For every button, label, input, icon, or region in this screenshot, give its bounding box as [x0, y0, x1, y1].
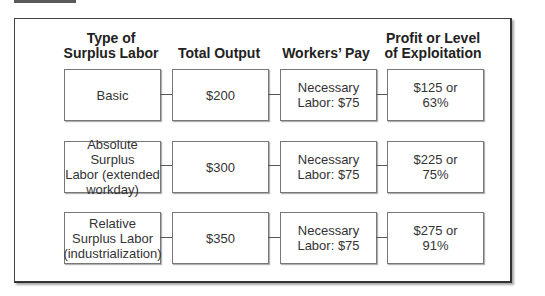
- connector: [268, 94, 280, 95]
- row2-type-box: Absolute Surplus Labor (extended workday…: [64, 141, 161, 193]
- row2-profit-box: $225 or 75%: [387, 141, 484, 193]
- row3-workers-pay-box: Necessary Labor: $75: [280, 212, 377, 264]
- box-text: Basic: [97, 88, 129, 103]
- box-text: Relative: [63, 216, 161, 231]
- row1-type-box: Basic: [64, 69, 161, 121]
- box-text: $300: [206, 160, 235, 175]
- connector: [268, 237, 280, 238]
- header-line: Surplus Labor: [56, 46, 166, 61]
- box-text: $125 or: [413, 80, 457, 95]
- row1-total-output-box: $200: [172, 69, 269, 121]
- box-text: workday): [65, 182, 160, 197]
- box-text: Labor (extended: [65, 167, 160, 182]
- connector: [160, 237, 172, 238]
- box-text: Necessary: [297, 80, 359, 95]
- header-profit-level-of-exploitation: Profit or Level of Exploitation: [378, 31, 488, 61]
- box-text: 63%: [413, 95, 457, 110]
- header-line: Profit or Level: [378, 31, 488, 46]
- header-type-of-surplus-labor: Type of Surplus Labor: [56, 31, 166, 61]
- row3-type-box: Relative Surplus Labor (industrializatio…: [64, 212, 161, 264]
- row3-profit-box: $275 or 91%: [387, 212, 484, 264]
- box-text: Labor: $75: [297, 238, 359, 253]
- header-line: Type of: [56, 31, 166, 46]
- box-text: $225 or: [413, 152, 457, 167]
- header-total-output: Total Output: [164, 46, 274, 61]
- box-text: 75%: [413, 167, 457, 182]
- box-text: 91%: [413, 238, 457, 253]
- connector: [268, 165, 280, 166]
- box-text: $275 or: [413, 223, 457, 238]
- box-text: $350: [206, 231, 235, 246]
- box-text: Necessary: [297, 152, 359, 167]
- header-line: of Exploitation: [378, 46, 488, 61]
- box-text: Necessary: [297, 223, 359, 238]
- row1-profit-box: $125 or 63%: [387, 69, 484, 121]
- row3-total-output-box: $350: [172, 212, 269, 264]
- box-text: Absolute Surplus: [65, 137, 160, 167]
- connector: [160, 165, 172, 166]
- header-workers-pay: Workers’ Pay: [271, 46, 381, 61]
- box-text: (industrialization): [63, 246, 161, 261]
- row1-workers-pay-box: Necessary Labor: $75: [280, 69, 377, 121]
- box-text: $200: [206, 88, 235, 103]
- header-line: Workers’ Pay: [271, 46, 381, 61]
- connector: [160, 94, 172, 95]
- box-text: Labor: $75: [297, 167, 359, 182]
- figure-label-tab: [14, 0, 76, 3]
- box-text: Labor: $75: [297, 95, 359, 110]
- header-line: Total Output: [164, 46, 274, 61]
- box-text: Surplus Labor: [63, 231, 161, 246]
- row2-total-output-box: $300: [172, 141, 269, 193]
- row2-workers-pay-box: Necessary Labor: $75: [280, 141, 377, 193]
